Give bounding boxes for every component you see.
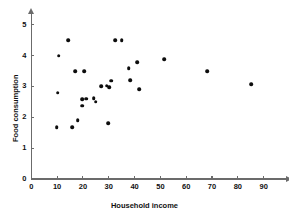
y-tick-label: 0 bbox=[17, 175, 26, 183]
data-point bbox=[94, 100, 98, 104]
data-point bbox=[56, 91, 60, 95]
x-tick bbox=[211, 176, 212, 179]
x-tick bbox=[186, 176, 187, 179]
x-tick bbox=[57, 176, 58, 179]
x-tick-label: 50 bbox=[156, 183, 164, 191]
x-tick bbox=[108, 176, 109, 179]
data-point bbox=[80, 104, 84, 108]
plot-area: 0102030405060708090012345Household incom… bbox=[0, 0, 289, 222]
y-tick-label: 4 bbox=[17, 52, 26, 60]
data-point bbox=[137, 87, 141, 91]
data-point bbox=[57, 54, 61, 58]
data-point bbox=[73, 69, 77, 73]
x-tick-label: 70 bbox=[208, 183, 216, 191]
x-tick-label: 90 bbox=[260, 183, 268, 191]
data-point bbox=[66, 38, 70, 42]
data-point bbox=[55, 125, 59, 129]
y-tick bbox=[31, 86, 34, 87]
y-axis-arrow bbox=[28, 8, 34, 14]
data-point bbox=[120, 38, 124, 42]
x-tick-label: 30 bbox=[105, 183, 113, 191]
x-tick bbox=[263, 176, 264, 179]
data-point bbox=[128, 78, 132, 82]
data-point bbox=[110, 79, 114, 83]
y-tick bbox=[31, 24, 34, 25]
x-tick bbox=[82, 176, 83, 179]
x-tick bbox=[134, 176, 135, 179]
data-point bbox=[249, 82, 253, 86]
data-point bbox=[127, 66, 131, 70]
x-tick bbox=[160, 176, 161, 179]
y-tick bbox=[31, 148, 34, 149]
y-tick-label: 5 bbox=[17, 21, 26, 29]
y-axis-title: Food consumption bbox=[11, 75, 20, 143]
data-point bbox=[107, 85, 111, 89]
y-tick bbox=[31, 178, 34, 179]
data-point bbox=[135, 61, 139, 65]
x-tick-label: 10 bbox=[53, 183, 61, 191]
data-point bbox=[70, 125, 74, 129]
x-axis-title: Household income bbox=[0, 201, 289, 210]
x-tick bbox=[237, 176, 238, 179]
y-tick-label: 1 bbox=[17, 144, 26, 152]
x-tick-label: 80 bbox=[234, 183, 242, 191]
data-point bbox=[106, 122, 110, 126]
data-point bbox=[76, 119, 80, 123]
x-tick-label: 0 bbox=[29, 183, 33, 191]
y-tick bbox=[31, 55, 34, 56]
x-tick-label: 40 bbox=[130, 183, 138, 191]
x-tick-label: 20 bbox=[79, 183, 87, 191]
data-point bbox=[114, 38, 118, 42]
data-point bbox=[206, 69, 210, 73]
scatter-plot-figure: 0102030405060708090012345Household incom… bbox=[0, 0, 289, 222]
data-point bbox=[99, 85, 103, 89]
y-tick bbox=[31, 117, 34, 118]
x-axis-line bbox=[31, 178, 285, 179]
y-axis-line bbox=[31, 14, 32, 179]
x-tick-label: 60 bbox=[182, 183, 190, 191]
data-point bbox=[162, 58, 166, 62]
data-point bbox=[83, 69, 87, 73]
x-axis-arrow bbox=[286, 176, 289, 182]
data-point bbox=[84, 97, 88, 101]
